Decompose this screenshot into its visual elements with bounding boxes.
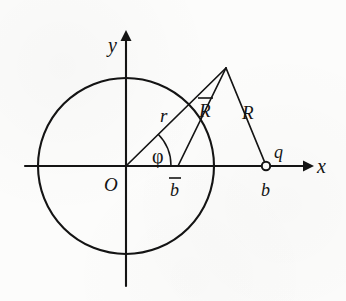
x-axis-arrowhead [303, 161, 314, 172]
x-axis-label: x [316, 155, 326, 177]
y-axis-label: y [106, 34, 117, 57]
b-bar-label: b [170, 180, 179, 200]
point-b-label: b [261, 180, 270, 200]
y-axis-arrowhead [121, 30, 132, 41]
segment-r-bar-label-group: R [198, 98, 213, 121]
segment-r [126, 68, 226, 166]
charge-point-marker [262, 162, 270, 170]
segment-R-label: R [241, 102, 254, 123]
angle-phi-label: φ [152, 145, 164, 168]
origin-label: O [104, 174, 118, 195]
b-bar-label-group: b [169, 178, 181, 200]
geometry-figure: y x O φ r R R b b q [0, 0, 346, 301]
segment-r-bar-label: R [198, 100, 211, 121]
charge-q-label: q [274, 142, 283, 162]
diagram-canvas: y x O φ r R R b b q [0, 0, 346, 301]
segment-r-label: r [160, 105, 168, 126]
